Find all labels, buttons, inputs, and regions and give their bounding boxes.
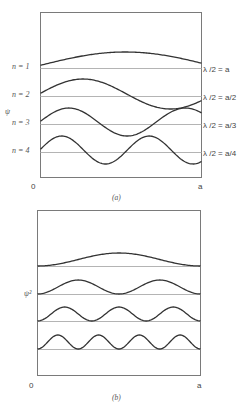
panel-a: n = 1n = 2n = 3n = 4 λ /2 = aλ /2 = a/2λ… xyxy=(5,13,237,203)
n-label-3: n = 3 xyxy=(12,118,29,127)
psi-squared-curve-n3 xyxy=(38,307,201,321)
panel-a-n-labels: n = 1n = 2n = 3n = 4 xyxy=(12,62,29,155)
panel-a-caption: (a) xyxy=(112,193,121,202)
wavelength-label-1: λ /2 = a xyxy=(203,65,230,74)
psi-curve-n1 xyxy=(41,52,202,65)
panel-b-y-axis-label: ψ² xyxy=(24,289,32,298)
psi-curve-n4 xyxy=(41,136,202,164)
psi-squared-curve-n4 xyxy=(38,335,201,349)
panel-b-psi-squared-curves xyxy=(38,253,201,349)
panel-a-baselines xyxy=(41,69,202,153)
psi-curve-n3 xyxy=(41,108,202,136)
n-label-2: n = 2 xyxy=(12,90,29,99)
psi-squared-curve-n2 xyxy=(38,280,201,294)
n-label-4: n = 4 xyxy=(12,146,29,155)
panel-a-x-start-label: 0 xyxy=(31,182,36,191)
psi-squared-curve-n1 xyxy=(38,253,201,266)
panel-a-x-end-label: a xyxy=(198,182,203,191)
wavefunction-diagram: n = 1n = 2n = 3n = 4 λ /2 = aλ /2 = a/2λ… xyxy=(0,0,245,405)
panel-b-frame xyxy=(38,211,201,376)
wavelength-label-3: λ /2 = a/3 xyxy=(203,121,237,130)
wavelength-label-4: λ /2 = a/4 xyxy=(203,149,237,158)
panel-a-y-axis-label: ψ xyxy=(5,107,11,116)
panel-b-caption: (b) xyxy=(112,393,121,402)
panel-b-x-start-label: 0 xyxy=(29,381,34,390)
psi-curve-n2 xyxy=(41,79,202,109)
panel-b-x-end-label: a xyxy=(197,381,202,390)
panel-a-wavelength-labels: λ /2 = aλ /2 = a/2λ /2 = a/3λ /2 = a/4 xyxy=(203,65,237,158)
panel-b: ψ² 0 a (b) xyxy=(24,211,202,403)
n-label-1: n = 1 xyxy=(12,62,29,71)
wavelength-label-2: λ /2 = a/2 xyxy=(203,93,237,102)
